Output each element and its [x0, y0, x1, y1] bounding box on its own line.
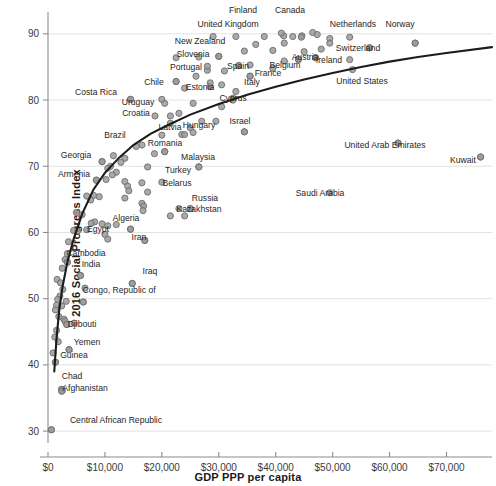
data-point[interactable]: [162, 149, 168, 155]
data-point[interactable]: [193, 73, 199, 79]
data-point[interactable]: [347, 34, 353, 40]
point-label: Romania: [148, 138, 183, 148]
data-point[interactable]: [270, 47, 276, 53]
data-point[interactable]: [77, 272, 83, 278]
data-point[interactable]: [48, 427, 54, 433]
point-label: Kuwait: [450, 155, 476, 165]
data-point[interactable]: [103, 176, 109, 182]
point-label: Israel: [229, 116, 250, 126]
x-tick-label: $10,000: [87, 462, 124, 473]
point-label: Iraq: [143, 266, 158, 276]
data-point[interactable]: [318, 46, 324, 52]
point-label: Netherlands: [330, 19, 376, 29]
data-point[interactable]: [152, 113, 158, 119]
point-label: Hungary: [183, 120, 216, 130]
data-point[interactable]: [139, 142, 145, 148]
trend-line: [54, 47, 492, 371]
plot-area: 30405060708090$0$10,000$20,000$30,000$40…: [0, 0, 496, 486]
data-point[interactable]: [59, 265, 65, 271]
point-labels: FinlandCanadaUnited KingdomNetherlandsNo…: [58, 5, 477, 425]
data-point[interactable]: [278, 30, 284, 36]
data-point[interactable]: [105, 236, 111, 242]
data-point[interactable]: [167, 113, 173, 119]
x-tick-label: $40,000: [258, 462, 295, 473]
point-label: Turkey: [165, 165, 192, 175]
data-point[interactable]: [167, 213, 173, 219]
data-point[interactable]: [118, 159, 124, 165]
point-label: Norway: [385, 19, 415, 29]
y-tick-label: 80: [28, 95, 40, 106]
data-point[interactable]: [190, 129, 196, 135]
data-point[interactable]: [73, 210, 79, 216]
data-point[interactable]: [139, 180, 145, 186]
data-point[interactable]: [65, 239, 71, 245]
point-label: Estonia: [186, 82, 215, 92]
point-label: Georgia: [61, 150, 92, 160]
data-point[interactable]: [109, 172, 115, 178]
data-point[interactable]: [314, 31, 320, 37]
data-point[interactable]: [327, 40, 333, 46]
x-tick-label: $60,000: [371, 462, 408, 473]
data-point[interactable]: [145, 164, 151, 170]
data-point[interactable]: [176, 110, 182, 116]
data-point[interactable]: [140, 208, 146, 214]
point-label: Spain: [227, 61, 249, 71]
point-label: India: [82, 259, 101, 269]
data-point[interactable]: [126, 188, 132, 194]
data-point[interactable]: [412, 40, 418, 46]
data-point[interactable]: [182, 131, 188, 137]
point-label: Latvia: [159, 122, 182, 132]
data-point[interactable]: [478, 154, 484, 160]
y-tick-label: 60: [28, 227, 40, 238]
point-label: Belarus: [162, 178, 191, 188]
point-label: Russia: [192, 193, 218, 203]
point-label: Chad: [62, 371, 83, 381]
data-point[interactable]: [99, 159, 105, 165]
y-tick-label: 70: [28, 161, 40, 172]
logarithmic-trend-line: [54, 47, 492, 371]
point-label: United Kingdom: [197, 19, 258, 29]
point-label: Finland: [229, 5, 257, 15]
data-point[interactable]: [80, 299, 86, 305]
data-point[interactable]: [196, 164, 202, 170]
point-label: Cyprus: [219, 93, 246, 103]
point-label: Djibouti: [68, 319, 97, 329]
data-point[interactable]: [190, 100, 196, 106]
point-label: Malaysia: [181, 152, 215, 162]
data-point[interactable]: [162, 100, 168, 106]
data-point[interactable]: [241, 48, 247, 54]
data-point[interactable]: [298, 34, 304, 40]
point-label: Ireland: [316, 55, 342, 65]
x-tick-label: $50,000: [315, 462, 352, 473]
data-point[interactable]: [219, 82, 225, 88]
data-point[interactable]: [122, 195, 128, 201]
point-label: Portugal: [170, 62, 202, 72]
data-point[interactable]: [261, 33, 267, 39]
data-point[interactable]: [110, 153, 116, 159]
data-point[interactable]: [233, 33, 239, 39]
data-point[interactable]: [241, 129, 247, 135]
data-point[interactable]: [253, 41, 259, 47]
point-label: Yemen: [74, 337, 101, 347]
x-tick-label: $70,000: [428, 462, 465, 473]
y-tick-label: 90: [28, 28, 40, 39]
point-label: Canada: [275, 5, 305, 15]
data-point[interactable]: [96, 194, 102, 200]
data-point[interactable]: [216, 53, 222, 59]
point-label: Congo, Republic of: [82, 285, 156, 295]
data-point[interactable]: [145, 189, 151, 195]
point-label: Switzerland: [336, 43, 381, 53]
point-label: Armenia: [58, 169, 90, 179]
data-point[interactable]: [204, 63, 210, 69]
point-label: Algeria: [113, 213, 140, 223]
point-label: Uruguay: [122, 97, 155, 107]
data-point[interactable]: [151, 151, 157, 157]
data-point[interactable]: [173, 78, 179, 84]
data-point[interactable]: [347, 57, 353, 63]
data-point[interactable]: [52, 307, 58, 313]
y-tick-label: 30: [28, 426, 40, 437]
point-label: United Arab Emirates: [344, 140, 425, 150]
data-point[interactable]: [281, 40, 287, 46]
y-tick-label: 50: [28, 293, 40, 304]
data-point[interactable]: [290, 33, 296, 39]
